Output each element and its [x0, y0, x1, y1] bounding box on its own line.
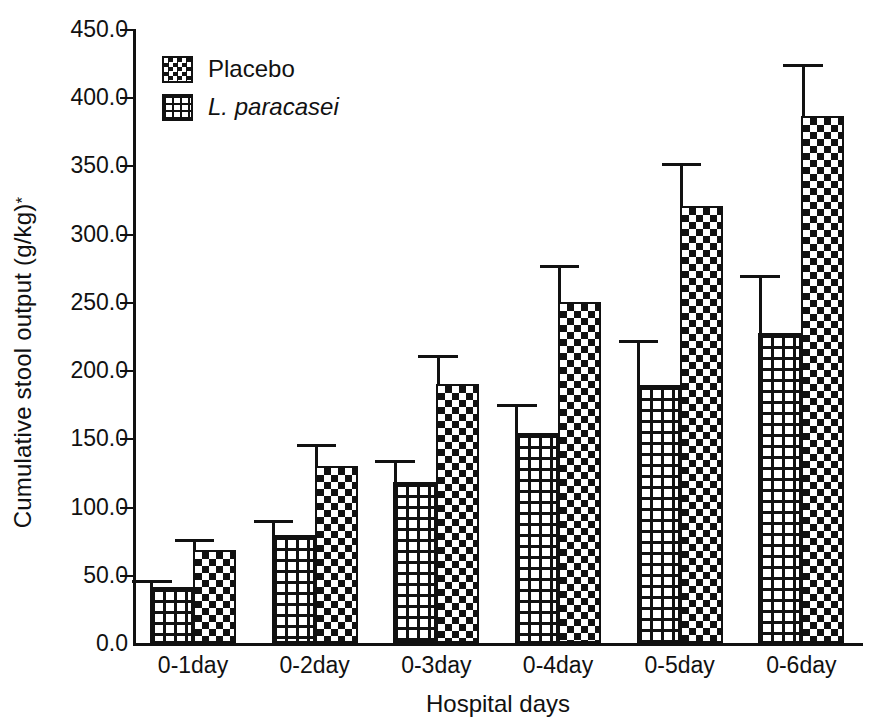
error-bar-stem: [150, 580, 153, 587]
y-axis-tick-labels: 0.050.0100.0150.0200.0250.0300.0350.0400…: [48, 0, 128, 725]
error-bar: [375, 460, 415, 643]
chart-legend: PlaceboL. paracasei: [162, 50, 392, 126]
x-axis-tick-label: 0-3day: [401, 652, 471, 679]
legend-label: L. paracasei: [208, 93, 339, 121]
error-bar-stem: [437, 355, 440, 384]
bar-group: [637, 29, 723, 643]
error-bar-stem: [558, 265, 561, 302]
error-bar: [418, 355, 458, 643]
y-axis-tick-mark: [120, 165, 133, 167]
error-bar-stem: [394, 460, 397, 482]
x-axis-tick-label: 0-5day: [644, 652, 714, 679]
error-bar: [740, 275, 780, 643]
legend-swatch-checker-icon: [162, 56, 193, 83]
y-axis-tick-mark: [120, 370, 133, 372]
chart-figure: Cumulative stool output (g/kg)* 0.050.01…: [0, 0, 876, 725]
error-bar-stem: [193, 539, 196, 550]
legend-swatch-grid-icon: [162, 94, 193, 121]
error-bar-stem: [802, 64, 805, 116]
legend-entry[interactable]: L. paracasei: [162, 88, 392, 126]
x-axis-tick-label: 0-6day: [766, 652, 836, 679]
error-bar: [540, 265, 580, 643]
x-axis-tick-label: 0-2day: [279, 652, 349, 679]
x-axis-line: [133, 643, 863, 646]
error-bar-stem: [515, 404, 518, 433]
legend-entry[interactable]: Placebo: [162, 50, 392, 88]
y-axis-tick-mark: [120, 29, 133, 31]
y-axis-title-text: Cumulative stool output (g/kg): [9, 204, 37, 529]
y-axis-title: Cumulative stool output (g/kg)*: [0, 0, 46, 725]
error-bar-stem: [272, 520, 275, 535]
error-bar: [297, 444, 337, 643]
y-axis-tick-label: 0.0: [96, 630, 128, 657]
y-axis-tick-mark: [120, 234, 133, 236]
error-bar: [783, 64, 823, 643]
error-bar: [175, 539, 215, 643]
error-bar-stem: [315, 444, 318, 466]
bar-group: [515, 29, 601, 643]
error-bar-stem: [759, 275, 762, 334]
y-axis-tick-mark: [120, 97, 133, 99]
x-axis-tick-labels: 0-1day0-2day0-3day0-4day0-5day0-6day: [133, 652, 863, 686]
y-axis-tick-mark: [120, 575, 133, 577]
error-bar-stem: [637, 340, 640, 385]
y-axis-tick-mark: [120, 438, 133, 440]
error-bar: [619, 340, 659, 643]
error-bar: [132, 580, 172, 643]
x-axis-tick-label: 0-1day: [158, 652, 228, 679]
bar-group: [393, 29, 479, 643]
y-axis-tick-mark: [120, 302, 133, 304]
x-axis-tick-label: 0-4day: [523, 652, 593, 679]
y-axis-tick-mark: [120, 507, 133, 509]
error-bar: [254, 520, 294, 643]
error-bar: [662, 163, 702, 643]
legend-label: Placebo: [208, 55, 295, 83]
x-axis-title: Hospital days: [133, 690, 863, 718]
error-bar-stem: [680, 163, 683, 207]
error-bar: [497, 404, 537, 643]
bar-group: [758, 29, 844, 643]
